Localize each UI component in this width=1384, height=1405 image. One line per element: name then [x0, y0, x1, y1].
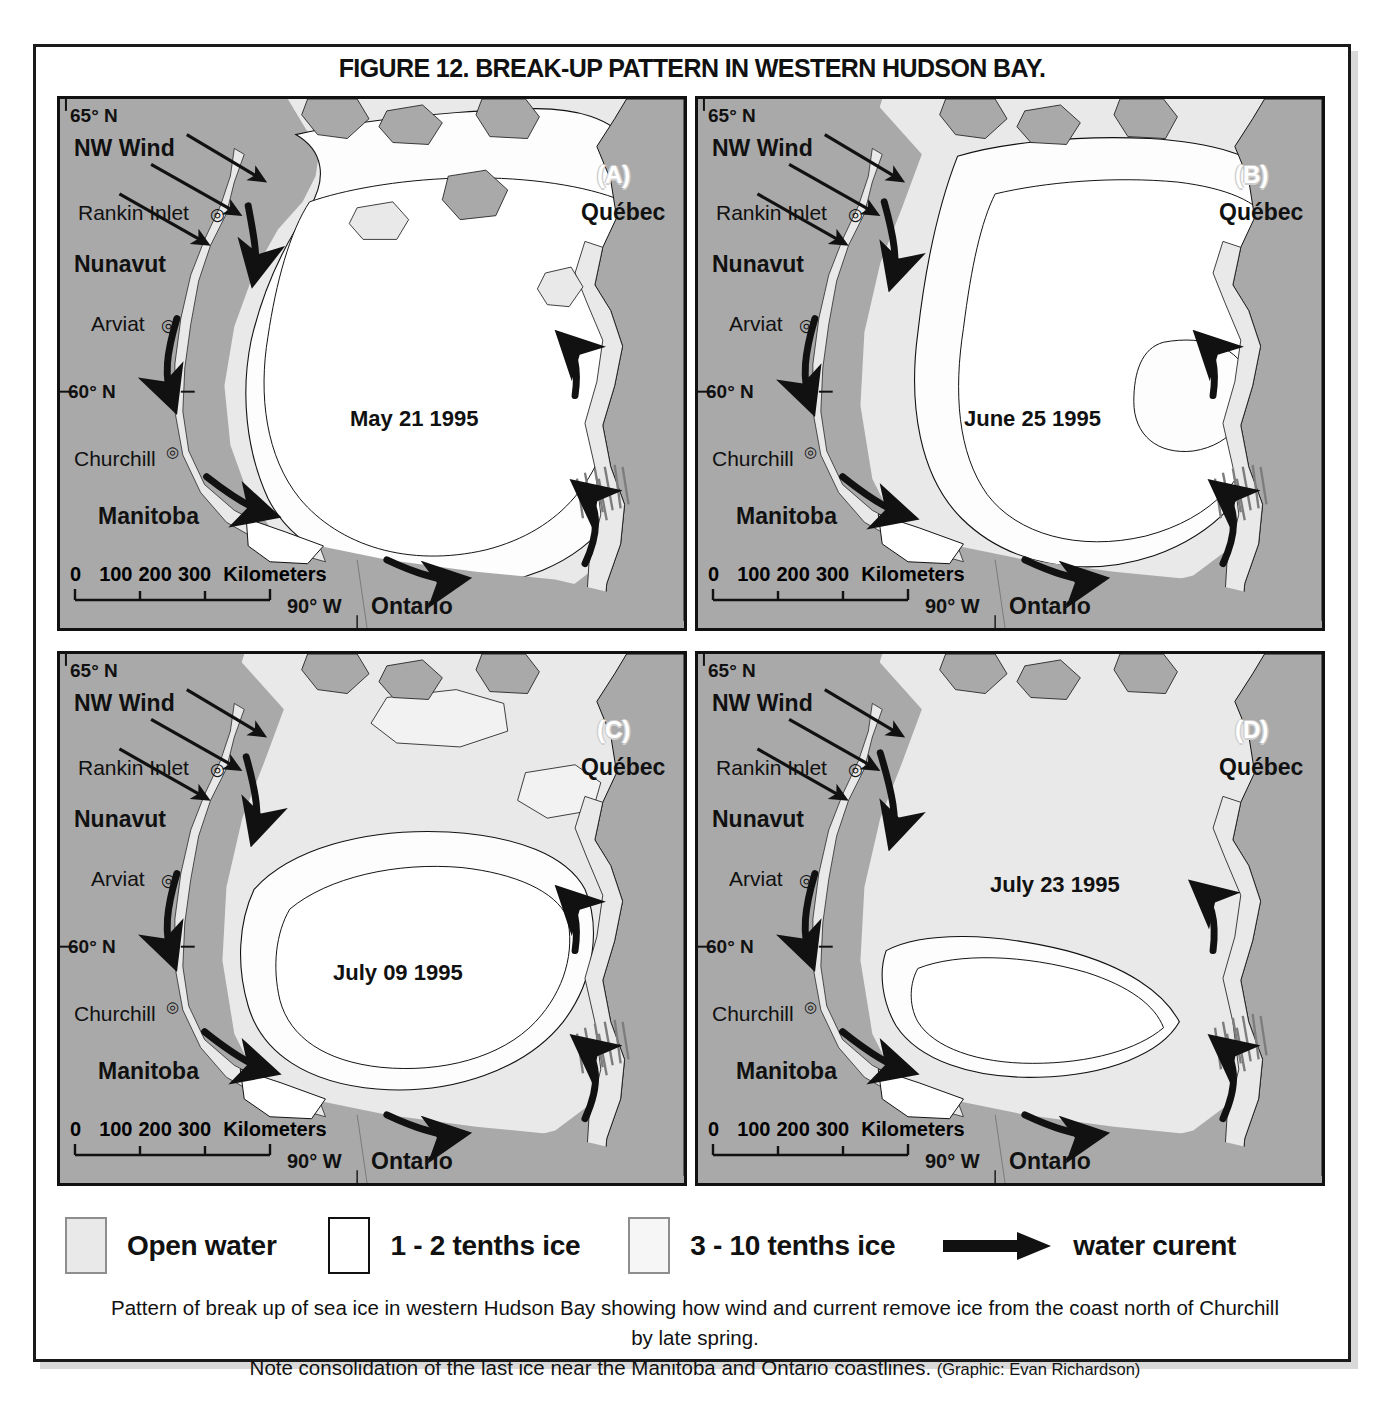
ice-1-2-swatch — [328, 1217, 370, 1274]
nw-wind-label-d: NW Wind — [712, 690, 813, 717]
panel-id-d: (D) — [1235, 716, 1268, 744]
nw-wind-label-b: NW Wind — [712, 135, 813, 162]
scale-200-d: 200 — [777, 1118, 810, 1141]
legend-label-water-current: water curent — [1073, 1230, 1236, 1262]
nw-wind-label-a: NW Wind — [74, 135, 175, 162]
scale-300-a: 300 — [178, 563, 211, 586]
ontario-label-a: Ontario — [371, 593, 453, 620]
churchill-label-d: Churchill — [712, 1002, 794, 1026]
manitoba-label-b: Manitoba — [736, 503, 837, 530]
nunavut-label-a: Nunavut — [74, 251, 166, 278]
scale-200-a: 200 — [139, 563, 172, 586]
rankin-inlet-marker-b: ◎ — [848, 204, 863, 225]
manitoba-label-a: Manitoba — [98, 503, 199, 530]
scale-ticks-d — [708, 1141, 913, 1159]
ice-3-10-swatch — [628, 1217, 670, 1274]
lat-60n-label-b: 60° N — [706, 381, 754, 403]
arviat-marker-b: ◎ — [799, 315, 814, 336]
churchill-label-b: Churchill — [712, 447, 794, 471]
churchill-label-c: Churchill — [74, 1002, 156, 1026]
scale-100-d: 100 — [737, 1118, 770, 1141]
panel-id-c: (C) — [597, 716, 630, 744]
scale-bar-a: 0 100 200 300 Kilometers — [70, 563, 327, 608]
arviat-label-d: Arviat — [729, 867, 783, 891]
legend-label-ice-3-10: 3 - 10 tenths ice — [690, 1230, 895, 1262]
rankin-inlet-marker-d: ◎ — [848, 759, 863, 780]
scale-300-b: 300 — [816, 563, 849, 586]
arviat-label-a: Arviat — [91, 312, 145, 336]
arviat-marker-a: ◎ — [161, 315, 176, 336]
ontario-label-c: Ontario — [371, 1148, 453, 1175]
lat-65n-label-b: 65° N — [708, 105, 756, 127]
water-current-arrow-icon — [943, 1231, 1053, 1261]
map-panel-a: 65° N NW Wind Rankin Inlet ◎ Nunavut Arv… — [57, 96, 687, 631]
scale-300-d: 300 — [816, 1118, 849, 1141]
scale-ticks-a — [70, 586, 275, 604]
churchill-marker-c: ◎ — [166, 998, 179, 1016]
rankin-inlet-marker-a: ◎ — [210, 204, 225, 225]
churchill-label-a: Churchill — [74, 447, 156, 471]
legend-item-ice-3-10: 3 - 10 tenths ice — [628, 1217, 895, 1274]
map-graphic-d — [698, 654, 1322, 1183]
quebec-label-b: Québec — [1219, 199, 1303, 226]
nunavut-label-d: Nunavut — [712, 806, 804, 833]
legend-label-open-water: Open water — [127, 1230, 276, 1262]
lat-65n-label-a: 65° N — [70, 105, 118, 127]
scale-ticks-c — [70, 1141, 275, 1159]
figure-title: FIGURE 12. BREAK-UP PATTERN IN WESTERN H… — [0, 54, 1384, 83]
caption-line-1: Pattern of break up of sea ice in wester… — [111, 1296, 1279, 1349]
scale-0-b: 0 — [708, 563, 719, 586]
map-panel-d: 65° N NW Wind Rankin Inlet ◎ Nunavut Arv… — [695, 651, 1325, 1186]
scale-100-a: 100 — [99, 563, 132, 586]
panel-date-b: June 25 1995 — [964, 406, 1101, 432]
panel-id-a: (A) — [597, 161, 630, 189]
rankin-inlet-label-a: Rankin Inlet — [78, 201, 189, 225]
panel-date-d: July 23 1995 — [990, 872, 1120, 898]
open-water-swatch — [65, 1217, 107, 1274]
nunavut-label-c: Nunavut — [74, 806, 166, 833]
quebec-label-a: Québec — [581, 199, 665, 226]
scale-units-c: Kilometers — [223, 1118, 326, 1141]
scale-bar-c: 0 100 200 300 Kilometers — [70, 1118, 327, 1163]
map-graphic-a — [60, 99, 684, 628]
map-graphic-b — [698, 99, 1322, 628]
legend-item-water-current: water curent — [943, 1230, 1236, 1262]
panel-date-c: July 09 1995 — [333, 960, 463, 986]
nunavut-label-b: Nunavut — [712, 251, 804, 278]
churchill-marker-d: ◎ — [804, 998, 817, 1016]
rankin-inlet-label-c: Rankin Inlet — [78, 756, 189, 780]
figure-caption: Pattern of break up of sea ice in wester… — [100, 1293, 1290, 1384]
arviat-label-b: Arviat — [729, 312, 783, 336]
map-panel-c: 65° N NW Wind Rankin Inlet ◎ Nunavut Arv… — [57, 651, 687, 1186]
rankin-inlet-marker-c: ◎ — [210, 759, 225, 780]
scale-100-b: 100 — [737, 563, 770, 586]
ontario-label-b: Ontario — [1009, 593, 1091, 620]
caption-credit: (Graphic: Evan Richardson) — [937, 1360, 1141, 1378]
caption-line-2: Note consolidation of the last ice near … — [250, 1356, 931, 1379]
scale-0-c: 0 — [70, 1118, 81, 1141]
churchill-marker-b: ◎ — [804, 443, 817, 461]
scale-200-b: 200 — [777, 563, 810, 586]
scale-100-c: 100 — [99, 1118, 132, 1141]
arviat-marker-c: ◎ — [161, 870, 176, 891]
arviat-marker-d: ◎ — [799, 870, 814, 891]
map-graphic-c — [60, 654, 684, 1183]
quebec-label-c: Québec — [581, 754, 665, 781]
ontario-label-d: Ontario — [1009, 1148, 1091, 1175]
scale-300-c: 300 — [178, 1118, 211, 1141]
manitoba-label-d: Manitoba — [736, 1058, 837, 1085]
panel-date-a: May 21 1995 — [350, 406, 478, 432]
lat-65n-label-c: 65° N — [70, 660, 118, 682]
lat-60n-label-d: 60° N — [706, 936, 754, 958]
quebec-label-d: Québec — [1219, 754, 1303, 781]
rankin-inlet-label-d: Rankin Inlet — [716, 756, 827, 780]
scale-units-b: Kilometers — [861, 563, 964, 586]
panel-id-b: (B) — [1235, 161, 1268, 189]
map-panel-b: 65° N NW Wind Rankin Inlet ◎ Nunavut Arv… — [695, 96, 1325, 631]
scale-200-c: 200 — [139, 1118, 172, 1141]
legend-label-ice-1-2: 1 - 2 tenths ice — [390, 1230, 580, 1262]
nw-wind-label-c: NW Wind — [74, 690, 175, 717]
scale-bar-b: 0 100 200 300 Kilometers — [708, 563, 965, 608]
scale-0-d: 0 — [708, 1118, 719, 1141]
figure-legend: Open water 1 - 2 tenths ice 3 - 10 tenth… — [57, 1203, 1325, 1288]
